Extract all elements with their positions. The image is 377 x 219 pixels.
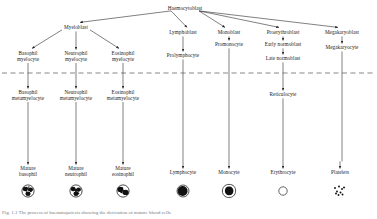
cell-erythrocyte-illustration xyxy=(273,181,293,201)
node-label-line: Megakaryocyte xyxy=(326,45,359,51)
node-monocyte[interactable]: Monocyte xyxy=(218,170,239,176)
node-early-normoblast[interactable]: Early normoblast xyxy=(265,42,302,48)
cell-lymphocyte-illustration xyxy=(173,181,193,201)
node-label-line: Late normoblast xyxy=(266,56,301,62)
node-platelets[interactable]: Platelets xyxy=(331,170,349,176)
node-monoblast[interactable]: Monoblast xyxy=(218,30,241,36)
cell-shape-lymphocyte xyxy=(173,181,193,201)
node-label-line: basophil xyxy=(6,172,50,178)
node-erythrocyte[interactable]: Erythrocyte xyxy=(270,170,295,176)
node-label-line: Early normoblast xyxy=(265,42,302,48)
node-label-line: Proerythroblast xyxy=(267,30,300,36)
connector xyxy=(80,11,171,23)
node-eosinophil-metamyelocyte[interactable]: Eosinophilmetamyelocyte xyxy=(101,90,145,101)
node-prolymphocyte[interactable]: Prolymphocyte xyxy=(167,53,199,59)
node-label-line: Monoblast xyxy=(218,30,241,36)
node-label-line: metamyelocyte xyxy=(54,96,98,102)
node-label-line: Myeloblast xyxy=(64,25,88,31)
node-label-line: Monocyte xyxy=(218,170,239,176)
cell-basophil-illustration xyxy=(18,181,38,201)
node-label-line: metamyelocyte xyxy=(101,96,145,102)
node-lymphoblast[interactable]: Lymphoblast xyxy=(169,30,197,36)
node-label-line: neutrophil xyxy=(54,172,98,178)
node-label-line: Lymphocyte xyxy=(170,170,196,176)
node-label-line: Platelets xyxy=(331,170,349,176)
node-haemocytoblast[interactable]: Haemocytoblast xyxy=(168,6,202,12)
node-neutrophil-myelocyte[interactable]: Neutrophilmyelocyte xyxy=(54,51,98,62)
node-basophil-myelocyte[interactable]: Basophilmyelocyte xyxy=(6,51,50,62)
node-label-line: myelocyte xyxy=(101,57,145,63)
haematopoiesis-diagram: HaemocytoblastMyeloblastLymphoblastMonob… xyxy=(0,0,377,219)
node-basophil-metamyelocyte[interactable]: Basophilmetamyelocyte xyxy=(6,90,50,101)
node-label-line: Lymphoblast xyxy=(169,30,197,36)
cell-shape-erythrocyte-ring xyxy=(273,181,293,201)
node-label-line: Prolymphocyte xyxy=(167,53,199,59)
cell-shape-granulocyte-eosinophil xyxy=(113,181,133,201)
node-label-line: Megakaryoblast xyxy=(325,30,359,36)
node-myeloblast[interactable]: Myeloblast xyxy=(64,25,88,31)
cell-shape-monocyte xyxy=(219,181,239,201)
connector xyxy=(199,11,338,28)
cell-platelets-illustration xyxy=(330,181,350,201)
cell-monocyte-illustration xyxy=(219,181,239,201)
cell-eosinophil-illustration xyxy=(113,181,133,201)
node-label-line: Promonocyte xyxy=(215,42,243,48)
connector xyxy=(32,30,62,49)
cell-shape-granulocyte-neutrophil xyxy=(66,181,86,201)
node-label-line: metamyelocyte xyxy=(6,96,50,102)
node-lymphocyte[interactable]: Lymphocyte xyxy=(170,170,196,176)
node-reticulocyte[interactable]: Reticulocyte xyxy=(270,92,297,98)
cell-neutrophil-illustration xyxy=(66,181,86,201)
node-neutrophil-metamyelocyte[interactable]: Neutrophilmetamyelocyte xyxy=(54,90,98,101)
node-label-line: myelocyte xyxy=(6,57,50,63)
node-megakaryoblast[interactable]: Megakaryoblast xyxy=(325,30,359,36)
node-mature-basophil[interactable]: Maturebasophil xyxy=(6,166,50,177)
node-promonocyte[interactable]: Promonocyte xyxy=(215,42,243,48)
connector xyxy=(171,11,187,28)
node-proerythroblast[interactable]: Proerythroblast xyxy=(267,30,300,36)
node-label-line: Haemocytoblast xyxy=(168,6,202,12)
node-label-line: myelocyte xyxy=(54,57,98,63)
node-late-normoblast[interactable]: Late normoblast xyxy=(266,56,301,62)
node-megakaryocyte[interactable]: Megakaryocyte xyxy=(326,45,359,51)
node-eosinophil-myelocyte[interactable]: Eosinophilmyelocyte xyxy=(101,51,145,62)
figure-caption: Fig. 1.1 The process of haematopoiesis s… xyxy=(2,210,374,216)
cell-shape-granulocyte-basophil xyxy=(18,181,38,201)
connector xyxy=(90,30,119,49)
node-label-line: Erythrocyte xyxy=(270,170,295,176)
node-label-line: Reticulocyte xyxy=(270,92,297,98)
node-mature-neutrophil[interactable]: Matureneutrophil xyxy=(54,166,98,177)
node-mature-eosinophil[interactable]: Matureeosinophil xyxy=(101,166,145,177)
cell-shape-platelet-dots xyxy=(330,181,350,201)
node-label-line: eosinophil xyxy=(101,172,145,178)
